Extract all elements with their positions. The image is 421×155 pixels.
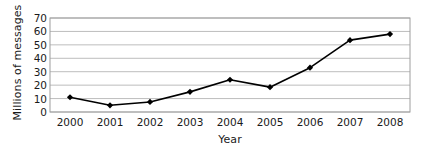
x-axis-tick-labels: 200020012002200320042005200620072008 — [0, 0, 421, 155]
x-axis-title: Year — [50, 133, 410, 146]
x-axis-tick-label: 2008 — [367, 117, 413, 128]
line-chart: Millions of messages 010203040506070 200… — [0, 0, 421, 155]
